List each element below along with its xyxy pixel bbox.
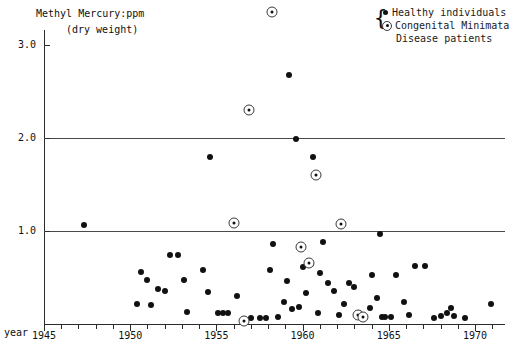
- data-point-healthy: [184, 309, 190, 315]
- data-point-healthy: [134, 301, 140, 307]
- data-point-healthy: [144, 277, 150, 283]
- data-point-healthy: [138, 269, 144, 275]
- x-axis-tick-minor: [458, 325, 459, 329]
- x-axis-tick-minor: [337, 325, 338, 329]
- x-axis-tick-minor: [285, 325, 286, 329]
- data-point-healthy: [369, 272, 375, 278]
- data-point-patient: [357, 312, 368, 323]
- x-axis-tick-minor: [165, 325, 166, 329]
- x-axis-tick-minor: [320, 325, 321, 329]
- x-axis-tick-minor: [182, 325, 183, 329]
- chart-legend: Healthy individuals Congenital Minimata …: [382, 6, 509, 45]
- data-point-healthy: [303, 290, 309, 296]
- data-point-healthy: [162, 288, 168, 294]
- x-axis-tick-minor: [492, 325, 493, 329]
- data-point-healthy: [315, 310, 321, 316]
- data-point-healthy: [148, 302, 154, 308]
- y-axis-tick: [45, 231, 50, 232]
- data-point-healthy: [320, 239, 326, 245]
- legend-label-patients: Congenital Minimata: [395, 19, 509, 32]
- data-point-healthy: [401, 299, 407, 305]
- x-axis-tick-minor: [423, 325, 424, 329]
- scatter-chart: Methyl Mercury:ppm (dry weight) 1.02.03.…: [0, 0, 518, 347]
- data-point-healthy: [286, 72, 292, 78]
- x-axis-tick-minor: [78, 325, 79, 329]
- data-point-healthy: [257, 315, 263, 321]
- data-point-healthy: [367, 305, 373, 311]
- data-point-patient: [228, 217, 239, 228]
- x-axis-tick-label: 1960: [283, 330, 323, 341]
- gridline: [44, 231, 505, 232]
- x-axis-tick-minor: [441, 325, 442, 329]
- data-point-healthy: [377, 231, 383, 237]
- data-point-healthy: [281, 299, 287, 305]
- data-point-healthy: [448, 305, 454, 311]
- data-point-healthy: [81, 222, 87, 228]
- data-point-healthy: [351, 284, 357, 290]
- data-point-healthy: [270, 241, 276, 247]
- x-axis-tick-label: 1965: [369, 330, 409, 341]
- data-point-healthy: [336, 312, 342, 318]
- data-point-healthy: [310, 154, 316, 160]
- x-axis-tick-label: 1950: [110, 330, 150, 341]
- data-point-healthy: [422, 263, 428, 269]
- x-axis-title: year: [4, 327, 28, 339]
- x-axis-tick-label: 1955: [196, 330, 236, 341]
- x-axis-tick-minor: [268, 325, 269, 329]
- data-point-healthy: [388, 314, 394, 320]
- data-point-healthy: [374, 295, 380, 301]
- data-point-patient: [335, 218, 346, 229]
- data-point-healthy: [451, 313, 457, 319]
- x-axis-tick-minor: [113, 325, 114, 329]
- x-axis-tick-minor: [199, 325, 200, 329]
- data-point-healthy: [181, 277, 187, 283]
- data-point-patient: [304, 257, 315, 268]
- chart-title: Methyl Mercury:ppm: [36, 8, 144, 20]
- data-point-healthy: [207, 154, 213, 160]
- x-axis-tick-label: 1970: [455, 330, 495, 341]
- data-point-patient: [266, 7, 277, 18]
- data-point-healthy: [263, 315, 269, 321]
- legend-label-continuation: Disease patients: [396, 32, 509, 45]
- x-axis-tick-minor: [354, 325, 355, 329]
- data-point-healthy: [438, 313, 444, 319]
- chart-subtitle: (dry weight): [66, 24, 138, 36]
- data-point-healthy: [406, 312, 412, 318]
- y-axis-tick-label: 2.0: [6, 132, 36, 143]
- data-point-healthy: [155, 286, 161, 292]
- data-point-healthy: [412, 263, 418, 269]
- legend-item-healthy: Healthy individuals: [382, 6, 509, 19]
- data-point-healthy: [393, 272, 399, 278]
- x-axis-tick-minor: [61, 325, 62, 329]
- legend-item-patients: Congenital Minimata: [382, 19, 509, 32]
- y-axis-tick: [45, 138, 50, 139]
- legend-label-healthy: Healthy individuals: [392, 6, 506, 19]
- data-point-patient: [244, 105, 255, 116]
- data-point-healthy: [296, 304, 302, 310]
- x-axis-tick-label: 1945: [24, 330, 64, 341]
- data-point-patient: [238, 316, 249, 327]
- data-point-healthy: [289, 306, 295, 312]
- data-point-healthy: [225, 310, 231, 316]
- data-point-healthy: [431, 315, 437, 321]
- data-point-healthy: [205, 289, 211, 295]
- gridline: [44, 138, 505, 139]
- x-axis-tick-minor: [372, 325, 373, 329]
- data-point-healthy: [175, 252, 181, 258]
- x-axis-tick-minor: [96, 325, 97, 329]
- y-axis-tick: [45, 45, 50, 46]
- data-point-healthy: [293, 136, 299, 142]
- filled-circle-icon: [383, 10, 388, 15]
- x-axis-tick-minor: [234, 325, 235, 329]
- data-point-healthy: [167, 252, 173, 258]
- data-point-patient: [311, 170, 322, 181]
- data-point-healthy: [317, 270, 323, 276]
- data-point-healthy: [462, 315, 468, 321]
- data-point-healthy: [234, 293, 240, 299]
- data-point-healthy: [331, 288, 337, 294]
- x-axis-tick-minor: [406, 325, 407, 329]
- data-point-healthy: [200, 267, 206, 273]
- data-point-healthy: [325, 280, 331, 286]
- x-axis-tick-minor: [251, 325, 252, 329]
- data-point-healthy: [284, 278, 290, 284]
